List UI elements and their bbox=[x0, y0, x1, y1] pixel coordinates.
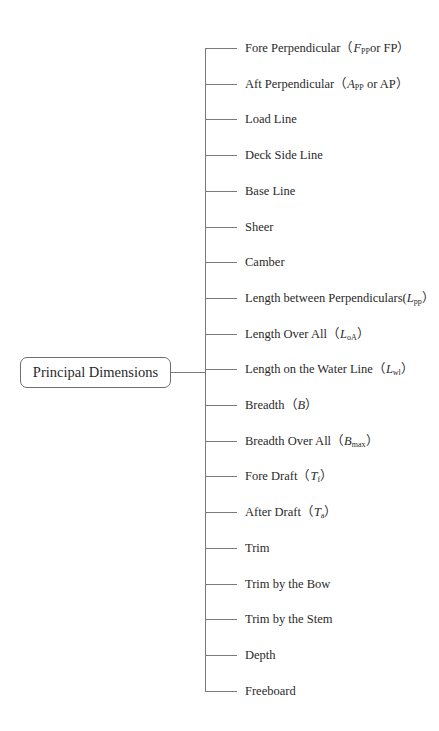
branch-symbol-subscript: wl bbox=[393, 368, 401, 377]
branch-label-text: Depth bbox=[245, 648, 276, 662]
branch-symbol: B bbox=[344, 434, 352, 448]
branch-label: Length between Perpendiculars(Lpp） bbox=[245, 288, 435, 312]
branch-label-text: Freeboard bbox=[245, 684, 296, 698]
branch-label-text: Deck Side Line bbox=[245, 148, 323, 162]
branch-label-text: Length on the Water Line（ bbox=[245, 362, 386, 376]
branch-node: Depth bbox=[205, 645, 439, 665]
branch-connector-line bbox=[205, 119, 237, 120]
branch-node: Breadth Over All（Bmax） bbox=[205, 431, 439, 451]
branch-connector-line bbox=[205, 548, 237, 549]
branch-node: Camber bbox=[205, 252, 439, 272]
branch-label-suffix: ） bbox=[324, 505, 337, 519]
branch-label-text: Length Over All（ bbox=[245, 327, 340, 341]
branch-label-suffix: ） bbox=[357, 327, 370, 341]
branch-symbol: L bbox=[386, 362, 393, 376]
branch-connector-line bbox=[205, 655, 237, 656]
branch-node: Length Over All（LoA） bbox=[205, 324, 439, 344]
branch-symbol-subscript: PP bbox=[355, 83, 364, 92]
branch-node: After Draft（Ta） bbox=[205, 502, 439, 522]
branch-connector-line bbox=[205, 691, 237, 692]
branch-node: Fore Draft（Tf） bbox=[205, 466, 439, 486]
branch-node: Sheer bbox=[205, 217, 439, 237]
branch-label-text: Base Line bbox=[245, 184, 295, 198]
branch-label-text: Breadth（ bbox=[245, 398, 298, 412]
branch-connector-line bbox=[205, 619, 237, 620]
branch-node: Deck Side Line bbox=[205, 145, 439, 165]
branch-symbol: A bbox=[347, 77, 355, 91]
branch-connector-line bbox=[205, 298, 237, 299]
branch-label: Fore Draft（Tf） bbox=[245, 466, 333, 490]
branch-connector-line bbox=[205, 584, 237, 585]
branch-connector-line bbox=[205, 441, 237, 442]
branch-symbol-subscript: oA bbox=[347, 333, 357, 342]
branch-connector-line bbox=[205, 155, 237, 156]
branch-label: Camber bbox=[245, 252, 285, 276]
branch-symbol-subscript: max bbox=[352, 440, 366, 449]
branch-connector-line bbox=[205, 191, 237, 192]
branch-node: Fore Perpendicular（FPPor FP） bbox=[205, 38, 439, 58]
branch-label: Length on the Water Line（Lwl） bbox=[245, 359, 414, 383]
root-connector-line bbox=[171, 372, 205, 373]
branch-connector-line bbox=[205, 405, 237, 406]
branch-label-text: Breadth Over All（ bbox=[245, 434, 344, 448]
branch-symbol-subscript: pp bbox=[414, 297, 422, 306]
branch-node: Trim bbox=[205, 538, 439, 558]
branch-connector-line bbox=[205, 84, 237, 85]
branch-label-text: Length between Perpendiculars( bbox=[245, 291, 407, 305]
branch-symbol: F bbox=[353, 41, 361, 55]
branch-label: Trim bbox=[245, 538, 270, 562]
branch-node: Length on the Water Line（Lwl） bbox=[205, 359, 439, 379]
branch-node: Trim by the Bow bbox=[205, 574, 439, 594]
branch-node: Breadth（B） bbox=[205, 395, 439, 415]
branch-label: After Draft（Ta） bbox=[245, 502, 337, 526]
branch-label-text: Trim bbox=[245, 541, 270, 555]
branch-label-suffix: ） bbox=[366, 434, 379, 448]
branch-node: Length between Perpendiculars(Lpp） bbox=[205, 288, 439, 308]
branch-connector-line bbox=[205, 227, 237, 228]
branch-label: Length Over All（LoA） bbox=[245, 324, 370, 348]
branch-node: Base Line bbox=[205, 181, 439, 201]
root-node-label: Principal Dimensions bbox=[33, 364, 158, 381]
branch-label: Load Line bbox=[245, 109, 297, 133]
branch-label-text: Fore Perpendicular（ bbox=[245, 41, 353, 55]
branch-connector-line bbox=[205, 334, 237, 335]
branch-label: Trim by the Bow bbox=[245, 574, 330, 598]
branch-label-suffix: ） bbox=[422, 291, 435, 305]
branch-label: Deck Side Line bbox=[245, 145, 323, 169]
branch-label-text: Aft Perpendicular（ bbox=[245, 77, 347, 91]
branch-node: Aft Perpendicular（APP or AP） bbox=[205, 74, 439, 94]
branch-label-suffix: ） bbox=[401, 362, 414, 376]
branch-label: Trim by the Stem bbox=[245, 609, 332, 633]
branch-label: Breadth（B） bbox=[245, 395, 318, 419]
branch-connector-line bbox=[205, 48, 237, 49]
branch-connector-line bbox=[205, 262, 237, 263]
branch-label: Aft Perpendicular（APP or AP） bbox=[245, 74, 409, 98]
branch-label-text: Fore Draft（ bbox=[245, 469, 310, 483]
root-node-principal-dimensions: Principal Dimensions bbox=[20, 357, 171, 388]
branch-label: Breadth Over All（Bmax） bbox=[245, 431, 379, 455]
branch-node: Trim by the Stem bbox=[205, 609, 439, 629]
branch-node: Load Line bbox=[205, 109, 439, 129]
branch-label-suffix: or FP） bbox=[370, 41, 410, 55]
branch-label-suffix: or AP） bbox=[364, 77, 409, 91]
branch-connector-line bbox=[205, 369, 237, 370]
branch-label: Base Line bbox=[245, 181, 295, 205]
branch-label-suffix: ） bbox=[305, 398, 318, 412]
branch-symbol: L bbox=[340, 327, 347, 341]
branch-symbol-subscript: PP bbox=[361, 47, 370, 56]
branch-label: Freeboard bbox=[245, 681, 296, 705]
branch-node: Freeboard bbox=[205, 681, 439, 701]
branch-label-text: After Draft（ bbox=[245, 505, 314, 519]
branch-symbol: T bbox=[314, 505, 321, 519]
branch-label: Fore Perpendicular（FPPor FP） bbox=[245, 38, 410, 62]
branch-label-text: Trim by the Bow bbox=[245, 577, 330, 591]
branch-label: Sheer bbox=[245, 217, 273, 241]
branch-label-text: Load Line bbox=[245, 112, 297, 126]
branch-label: Depth bbox=[245, 645, 276, 669]
branch-connector-line bbox=[205, 476, 237, 477]
branch-symbol: L bbox=[407, 291, 414, 305]
branch-connector-line bbox=[205, 512, 237, 513]
branch-label-text: Sheer bbox=[245, 220, 273, 234]
branch-label-text: Trim by the Stem bbox=[245, 612, 332, 626]
branch-label-suffix: ） bbox=[320, 469, 333, 483]
